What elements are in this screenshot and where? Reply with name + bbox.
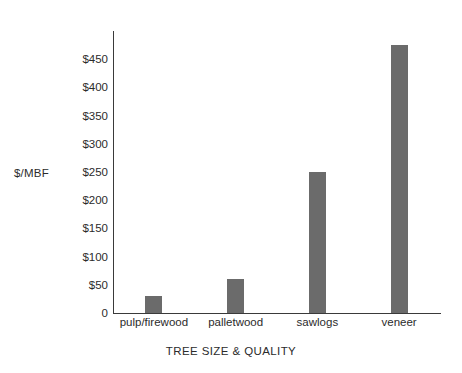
bar	[227, 279, 244, 313]
y-axis-tick-label: $450	[82, 53, 108, 65]
bar	[391, 45, 408, 313]
x-axis-tick-label: pulp/firewood	[120, 316, 188, 328]
x-axis-tick-label: sawlogs	[297, 316, 339, 328]
x-axis-tick-label: veneer	[382, 316, 417, 328]
y-axis-tick-label: $400	[82, 81, 108, 93]
bar	[145, 296, 162, 313]
x-axis-tick-label: palletwood	[208, 316, 263, 328]
bar-series	[113, 31, 440, 313]
y-axis-tick-label: $150	[82, 222, 108, 234]
x-axis-title: TREE SIZE & QUALITY	[0, 345, 462, 357]
bar-chart: $/MBF 0$50$100$150$200$250$300$350$400$4…	[0, 0, 462, 373]
y-axis-tick-label: $200	[82, 194, 108, 206]
y-axis-title: $/MBF	[14, 167, 49, 179]
y-axis-tick-label: $50	[89, 279, 108, 291]
y-axis-tick-label: 0	[102, 307, 108, 319]
y-axis-tick-label: $250	[82, 166, 108, 178]
y-axis-tick-label: $100	[82, 251, 108, 263]
y-axis-tick-label: $300	[82, 138, 108, 150]
x-axis-tick-labels: pulp/firewoodpalletwoodsawlogsveneer	[113, 316, 440, 336]
y-axis-tick-label: $350	[82, 110, 108, 122]
y-axis-tick-labels: 0$50$100$150$200$250$300$350$400$450	[58, 0, 108, 373]
bar	[309, 172, 326, 313]
